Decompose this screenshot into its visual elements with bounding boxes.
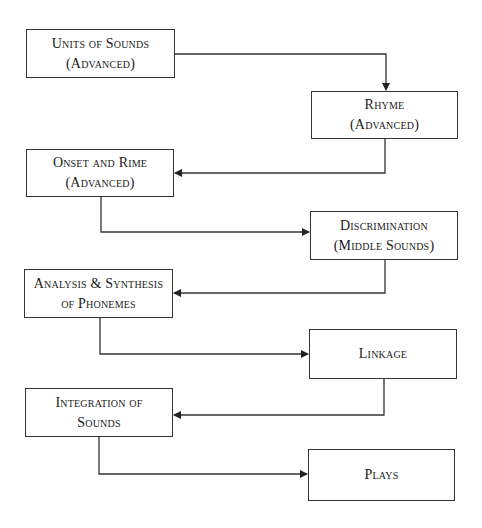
- node-units-of-sounds: Units of Sounds (Advanced): [26, 29, 175, 78]
- node-label-line: Integration of: [55, 393, 142, 413]
- node-linkage: Linkage: [309, 329, 457, 379]
- node-label-line: (Advanced): [66, 54, 135, 74]
- edge-linkage-to-integration: [174, 379, 384, 415]
- node-label-line: Plays: [365, 465, 399, 485]
- node-rhyme: Rhyme (Advanced): [311, 91, 458, 139]
- edge-onset-to-discrimination: [101, 197, 309, 232]
- node-label-line: Linkage: [359, 344, 407, 364]
- node-label-line: (Advanced): [65, 173, 134, 193]
- node-label-line: of Phonemes: [61, 294, 136, 314]
- node-label-line: Units of Sounds: [52, 34, 149, 54]
- node-analysis-synthesis: Analysis & Synthesis of Phonemes: [24, 269, 173, 318]
- node-label-line: Rhyme: [365, 95, 405, 115]
- node-label-line: Discrimination: [340, 216, 428, 236]
- node-integration: Integration of Sounds: [25, 388, 173, 437]
- node-label-line: Sounds: [77, 413, 120, 433]
- node-label-line: Onset and Rime: [53, 153, 147, 173]
- edge-rhyme-to-onset: [175, 139, 385, 173]
- edge-analysis-to-linkage: [100, 318, 308, 354]
- node-plays: Plays: [308, 449, 455, 501]
- node-onset-and-rime: Onset and Rime (Advanced): [26, 149, 174, 197]
- node-label-line: (Middle Sounds): [334, 236, 435, 256]
- node-label-line: Analysis & Synthesis: [34, 274, 163, 294]
- edge-discrimination-to-analysis: [174, 260, 385, 293]
- node-discrimination: Discrimination (Middle Sounds): [310, 211, 458, 260]
- node-label-line: (Advanced): [350, 115, 419, 135]
- edge-units-to-rhyme: [175, 54, 386, 90]
- edge-integration-to-plays: [99, 437, 307, 474]
